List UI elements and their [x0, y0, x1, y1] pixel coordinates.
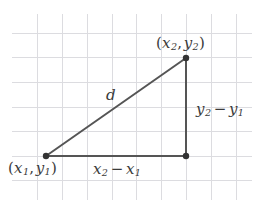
dy-second-var: y [229, 100, 238, 118]
p1-x-var: x [14, 159, 23, 177]
label-distance-d: d [106, 88, 116, 103]
dx-second-var: x [126, 160, 135, 178]
point-right-angle [183, 153, 189, 159]
p1-close-paren: ) [51, 159, 57, 177]
label-delta-x: x2−x1 [93, 162, 141, 177]
dy-operator: − [211, 100, 229, 118]
triangle-edge-hypotenuse [46, 58, 186, 156]
p2-x-var: x [162, 34, 171, 52]
point-p2 [183, 55, 189, 61]
label-delta-y: y2−y1 [196, 102, 244, 117]
dx-first-var: x [93, 160, 102, 178]
distance-formula-diagram: (x2,y2) (x1,y1) x2−x1 y2−y1 d [0, 0, 257, 214]
dx-operator: − [108, 160, 126, 178]
label-point-p2: (x2,y2) [156, 36, 205, 51]
dx-second-sub: 1 [135, 167, 142, 178]
dy-first-var: y [196, 100, 205, 118]
label-point-p1: (x1,y1) [8, 161, 57, 176]
p2-close-paren: ) [199, 34, 205, 52]
triangle-edges [46, 58, 186, 156]
distance-symbol: d [106, 86, 116, 104]
dy-second-sub: 1 [238, 107, 245, 118]
